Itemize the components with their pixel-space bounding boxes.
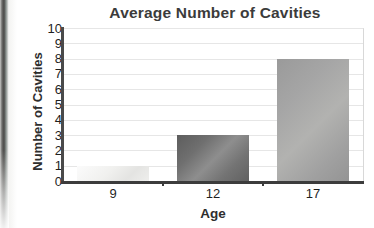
plot-area	[63, 28, 363, 181]
y-tick-label: 3	[26, 129, 62, 142]
x-axis-title: Age	[63, 206, 363, 221]
y-axis-line	[61, 27, 64, 183]
y-tick-label: 1	[26, 159, 62, 172]
x-tick-label: 17	[283, 186, 343, 201]
x-tick-label: 12	[183, 186, 243, 201]
bar	[177, 135, 249, 181]
bar	[277, 59, 349, 181]
x-axis-line	[61, 181, 364, 184]
y-tick-label: 2	[26, 144, 62, 157]
y-tick-label: 6	[26, 83, 62, 96]
y-tick-label: 7	[26, 67, 62, 80]
y-tick-label: 8	[26, 52, 62, 65]
page-background-tint	[9, 0, 17, 228]
y-tick-label: 10	[26, 22, 62, 35]
x-tick-label: 9	[83, 186, 143, 201]
y-tick-label: 4	[26, 113, 62, 126]
y-axis-tick-labels: 109876543210	[22, 0, 62, 228]
x-tick-mark	[262, 181, 264, 186]
gridline	[63, 43, 363, 44]
y-tick-label: 9	[26, 37, 62, 50]
y-tick-label: 5	[26, 98, 62, 111]
x-tick-mark	[162, 181, 164, 186]
y-tick-label: 0	[26, 175, 62, 188]
bar	[77, 166, 149, 181]
gridline	[63, 28, 363, 29]
chart-title: Average Number of Cavities	[60, 4, 370, 22]
scanned-page-edge-fade	[0, 150, 9, 228]
